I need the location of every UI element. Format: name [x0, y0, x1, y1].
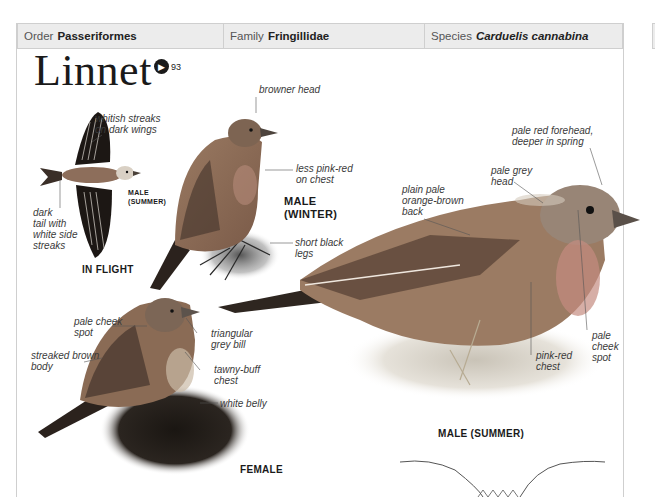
caption-male-winter: MALE (WINTER) [284, 195, 337, 221]
caption-male-summer: MALE (SUMMER) [438, 428, 524, 440]
annotation-browner-head: browner head [259, 84, 320, 95]
caption-in-flight: IN FLIGHT [82, 264, 134, 276]
annotation-back: plain pale orange-brown back [402, 184, 464, 217]
annotation-cheek-spot-female: pale cheek spot [74, 316, 122, 338]
annotation-pink-chest: pink-red chest [536, 350, 572, 372]
annotation-white-belly: white belly [220, 398, 267, 409]
caption-in-flight-sub: MALE (SUMMER) [128, 188, 166, 206]
annotation-cheek-spot-male: pale cheek spot [592, 330, 619, 363]
female-bird [38, 298, 250, 475]
annotation-wing-streaks: whitish streaks on dark wings [95, 113, 161, 135]
caption-female: FEMALE [240, 464, 283, 476]
male-winter-bird [150, 119, 280, 290]
annotation-short-legs: short black legs [295, 237, 343, 259]
annotation-streaked-body: streaked brown body [31, 350, 99, 372]
size-comparison-outline [400, 461, 605, 497]
annotation-tawny-chest: tawny-buff chest [214, 364, 260, 386]
annotation-tail: dark tail with white side streaks [33, 207, 77, 251]
annotation-less-pink-chest: less pink-red on chest [296, 163, 353, 185]
annotation-grey-head: pale grey head [491, 165, 532, 187]
male-summer-bird [218, 185, 640, 400]
annotation-red-forehead: pale red forehead, deeper in spring [512, 125, 593, 147]
annotation-bill: triangular grey bill [211, 328, 253, 350]
